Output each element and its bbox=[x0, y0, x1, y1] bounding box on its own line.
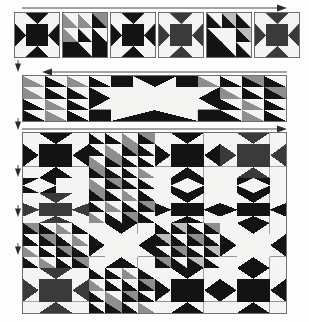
arrow-left-1-icon bbox=[14, 60, 22, 72]
arrow-left-5-icon bbox=[14, 243, 22, 255]
block-6-star[interactable] bbox=[254, 12, 300, 58]
block-2-triangles[interactable] bbox=[62, 12, 108, 58]
quilt-block bbox=[23, 268, 89, 313]
quilt-block bbox=[23, 223, 89, 268]
quilt-block bbox=[220, 223, 286, 268]
quilt-block bbox=[23, 133, 89, 178]
block-4-star[interactable] bbox=[158, 12, 204, 58]
quilt-block bbox=[89, 223, 155, 268]
arrow-left-4-icon bbox=[14, 205, 22, 217]
sashing-row-section[interactable] bbox=[22, 75, 287, 122]
quilt-block bbox=[155, 223, 221, 268]
quilt-block bbox=[23, 178, 89, 223]
quilt-block bbox=[220, 133, 286, 178]
quilt-block bbox=[89, 268, 155, 313]
quilt-block bbox=[155, 268, 221, 313]
block-row-section bbox=[0, 0, 309, 62]
block-3-star[interactable] bbox=[110, 12, 156, 58]
quilt-block bbox=[89, 178, 155, 223]
quilt-block bbox=[155, 178, 221, 223]
arrow-left-2-icon bbox=[14, 118, 22, 130]
block-5-triangles[interactable] bbox=[206, 12, 252, 58]
quilt-block bbox=[89, 133, 155, 178]
quilt-block bbox=[220, 178, 286, 223]
arrow-left-3-icon bbox=[14, 165, 22, 177]
quilt-diagram: Quilt assembly diagram Three-part quilt … bbox=[0, 0, 309, 322]
block-1-star[interactable] bbox=[14, 12, 60, 58]
quilt-block bbox=[155, 133, 221, 178]
quilt-block bbox=[220, 268, 286, 313]
quilt-top-section[interactable] bbox=[22, 132, 287, 314]
